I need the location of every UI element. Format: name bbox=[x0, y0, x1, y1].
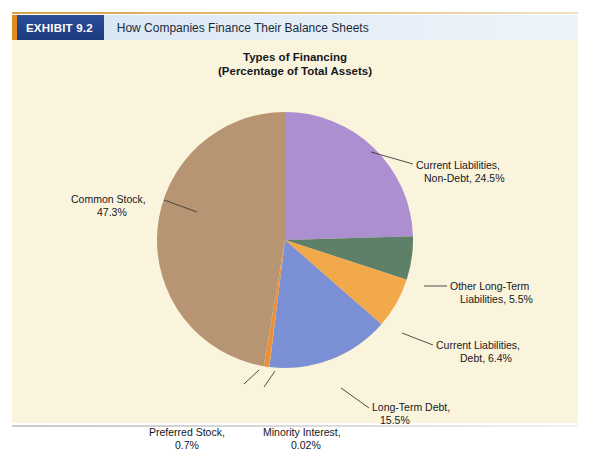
label-current-liabilities-nondebt-line2: Non-Debt, 24.5% bbox=[416, 172, 505, 185]
pie-chart-svg bbox=[12, 40, 578, 423]
label-other-long-term-liabilities: Other Long-Term Liabilities, 5.5% bbox=[450, 280, 533, 306]
leader-line-long-term-debt bbox=[341, 388, 369, 408]
exhibit-header-bar: EXHIBIT 9.2 How Companies Finance Their … bbox=[12, 15, 578, 40]
label-common-stock: Common Stock, 47.3% bbox=[71, 193, 146, 219]
label-preferred-stock-line1: Preferred Stock, bbox=[149, 426, 225, 439]
label-minority-interest: Minority Interest, 0.02% bbox=[263, 426, 341, 452]
label-common-stock-line1: Common Stock, bbox=[71, 193, 146, 206]
bottom-divider-rule bbox=[12, 425, 578, 427]
pie-chart: Current Liabilities, Non-Debt, 24.5% Oth… bbox=[12, 40, 578, 423]
pie-slices bbox=[157, 112, 413, 368]
slice-current-liabilities-nondebt[interactable] bbox=[285, 112, 413, 240]
leader-line-preferred-stock bbox=[244, 370, 259, 384]
label-current-liabilities-nondebt: Current Liabilities, Non-Debt, 24.5% bbox=[416, 159, 505, 185]
label-other-long-term-liabilities-line2: Liabilities, 5.5% bbox=[450, 293, 533, 306]
label-other-long-term-liabilities-line1: Other Long-Term bbox=[450, 280, 533, 293]
label-current-liabilities-debt-line2: Debt, 6.4% bbox=[436, 352, 520, 365]
label-current-liabilities-debt-line1: Current Liabilities, bbox=[436, 339, 520, 352]
label-current-liabilities-nondebt-line1: Current Liabilities, bbox=[416, 159, 505, 172]
label-preferred-stock-line2: 0.7% bbox=[149, 439, 225, 452]
label-common-stock-line2: 47.3% bbox=[71, 206, 146, 219]
label-current-liabilities-debt: Current Liabilities, Debt, 6.4% bbox=[436, 339, 520, 365]
exhibit-number-badge: EXHIBIT 9.2 bbox=[17, 15, 104, 40]
slice-common-stock[interactable] bbox=[157, 112, 285, 366]
top-divider-rule bbox=[12, 12, 578, 14]
label-minority-interest-line2: 0.02% bbox=[263, 439, 341, 452]
leader-line-minority-interest bbox=[264, 371, 275, 387]
label-preferred-stock: Preferred Stock, 0.7% bbox=[149, 426, 225, 452]
label-minority-interest-line1: Minority Interest, bbox=[263, 426, 341, 439]
leader-line-current-liabilities-debt bbox=[402, 333, 433, 345]
chart-panel: Types of Financing (Percentage of Total … bbox=[12, 40, 578, 423]
exhibit-title: How Companies Finance Their Balance Shee… bbox=[104, 15, 369, 40]
label-long-term-debt: Long-Term Debt, 15.5% bbox=[372, 401, 450, 427]
label-long-term-debt-line1: Long-Term Debt, bbox=[372, 401, 450, 414]
